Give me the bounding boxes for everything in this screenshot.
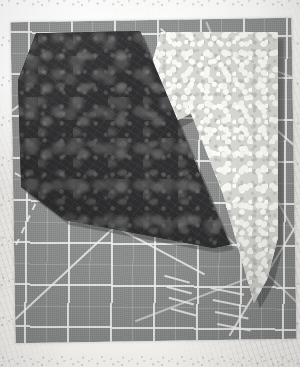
fabric-on-cutting-mat-photo xyxy=(0,0,300,367)
